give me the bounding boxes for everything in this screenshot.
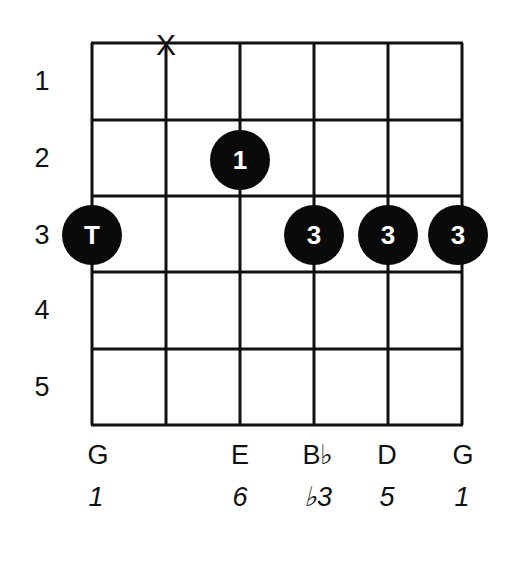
interval-label: 5 (367, 484, 407, 511)
interval-label: ♭3 (298, 484, 338, 511)
fret-number-2: 2 (27, 145, 57, 172)
finger-dot-thumb: T (62, 205, 122, 265)
note-label: G (78, 442, 118, 469)
fret-number-5: 5 (27, 374, 57, 401)
note-label: G (443, 442, 483, 469)
muted-string-x-icon: X (156, 30, 176, 60)
fret-number-1: 1 (27, 68, 57, 95)
finger-dot-1: 1 (210, 130, 270, 190)
fretboard-grid (0, 0, 522, 561)
finger-dot-3: 3 (358, 205, 418, 265)
finger-dot-3: 3 (428, 205, 488, 265)
interval-label: 1 (442, 484, 482, 511)
finger-dot-3: 3 (284, 205, 344, 265)
fret-number-3: 3 (27, 222, 57, 249)
fret-number-4: 4 (27, 297, 57, 324)
note-label: D (367, 442, 407, 469)
note-label: B♭ (298, 442, 338, 469)
interval-label: 6 (220, 484, 260, 511)
note-label: E (220, 442, 260, 469)
interval-label: 1 (76, 484, 116, 511)
chord-diagram: X 1 2 3 4 5 T 1 3 3 3 G E B♭ D G 1 6 ♭3 … (0, 0, 522, 561)
